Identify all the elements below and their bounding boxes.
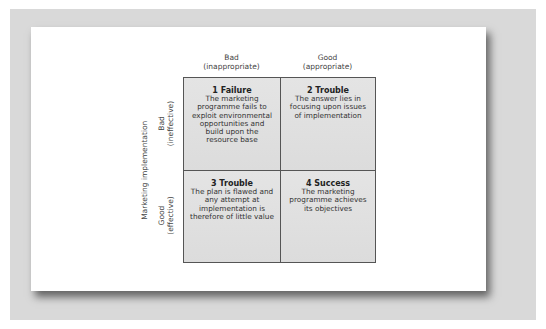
cell-failure: 1 Failure The marketing programme fails … [184, 78, 280, 170]
grid-divider-horizontal [184, 170, 375, 171]
column-label-good-line2: (appropriate) [279, 63, 376, 72]
column-label-bad: Bad (inappropriate) [183, 54, 280, 71]
cell-description: The plan is flawed and any attempt at im… [184, 188, 280, 221]
cell-success: 4 Success The marketing programme achiev… [281, 171, 375, 262]
row-label-bad-line2: (ineffective) [166, 94, 175, 154]
column-label-bad-line2: (inappropriate) [183, 63, 280, 72]
row-axis-title: Marketing implementation [141, 120, 150, 220]
row-label-good: Good (effective) [158, 186, 175, 246]
row-label-bad: Bad (ineffective) [158, 94, 175, 154]
cell-description: The answer lies in focusing upon issues … [281, 95, 375, 120]
cell-trouble-plan: 3 Trouble The plan is flawed and any att… [184, 171, 280, 262]
cell-description: The marketing programme fails to exploit… [184, 95, 280, 145]
cell-description: The marketing programme achieves its obj… [281, 188, 375, 213]
column-label-good: Good (appropriate) [279, 54, 376, 71]
row-label-good-line2: (effective) [166, 186, 175, 246]
matrix-grid: 1 Failure The marketing programme fails … [183, 77, 376, 263]
cell-trouble-implementation: 2 Trouble The answer lies in focusing up… [281, 78, 375, 170]
